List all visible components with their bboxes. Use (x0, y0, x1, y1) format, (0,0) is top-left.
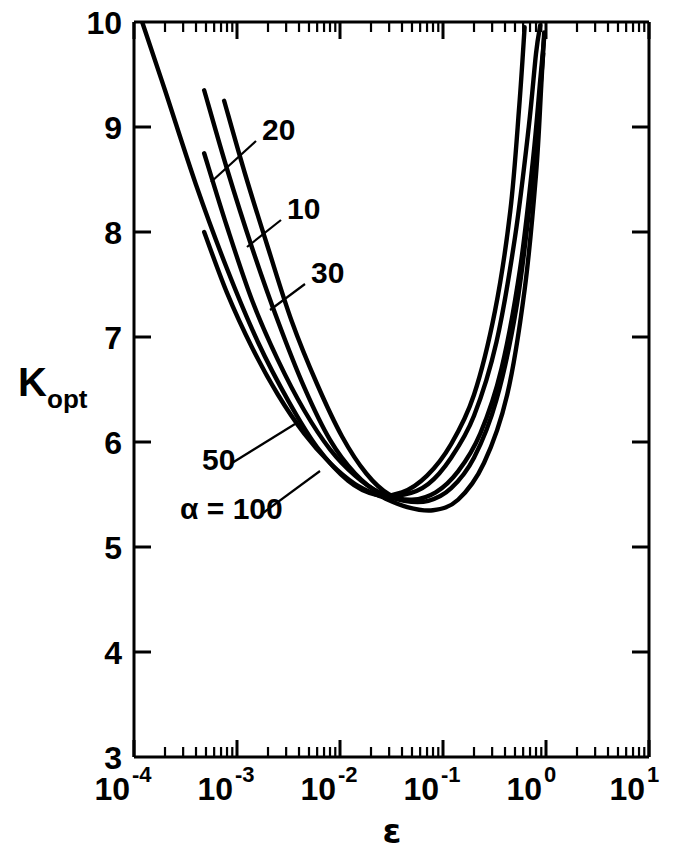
x-tick-label-exponent: -1 (441, 762, 461, 787)
curve-label-10: 10 (287, 192, 320, 225)
y-tick-label: 6 (104, 425, 122, 461)
curve-label-30: 30 (311, 256, 344, 289)
x-tick-label-exponent: -2 (338, 762, 358, 787)
y-tick-labels: 345678910 (86, 5, 122, 776)
curve-label-50: 50 (202, 443, 235, 476)
y-tick-label: 7 (104, 320, 122, 356)
y-axis-title-subscript: opt (47, 384, 88, 414)
y-tick-label: 8 (104, 215, 122, 251)
x-tick-label-mantissa: 10 (506, 771, 542, 807)
curve-label-100: α = 100 (180, 492, 283, 525)
y-tick-label: 9 (104, 110, 122, 146)
y-tick-label: 4 (104, 635, 122, 671)
x-tick-label-exponent: 1 (647, 762, 659, 787)
curve-alpha-50 (204, 54, 543, 503)
axis-frame (134, 22, 649, 757)
x-tick-label-mantissa: 10 (609, 771, 645, 807)
x-axis-title: ε (383, 811, 402, 851)
x-axis-ticks (134, 22, 649, 757)
x-tick-label-exponent: -4 (132, 762, 152, 787)
leader-line-50 (232, 424, 295, 463)
y-tick-label: 5 (104, 530, 122, 566)
curve-label-20: 20 (262, 113, 295, 146)
x-tick-label-mantissa: 10 (403, 771, 439, 807)
x-tick-label-mantissa: 10 (94, 771, 130, 807)
leader-line-20 (211, 141, 256, 182)
x-tick-label-mantissa: 10 (300, 771, 336, 807)
x-tick-labels: 10-410-310-210-1100101 (94, 762, 659, 807)
curve-annotation-labels: 20103050α = 100 (180, 113, 344, 525)
y-tick-label: 10 (86, 5, 122, 41)
y-axis-title-base: K (18, 360, 47, 404)
x-tick-label-mantissa: 10 (197, 771, 233, 807)
leader-line-10 (247, 220, 281, 247)
figure-container: 10-410-310-210-1100101 345678910 2010305… (0, 0, 676, 868)
y-axis-title: K opt (18, 360, 88, 414)
chart-canvas: 10-410-310-210-1100101 345678910 2010305… (0, 0, 676, 868)
x-tick-label-exponent: -3 (235, 762, 255, 787)
curve-alpha-100 (204, 33, 544, 511)
x-tick-label-exponent: 0 (544, 762, 556, 787)
y-axis-ticks (134, 127, 649, 652)
y-tick-label: 3 (104, 740, 122, 776)
